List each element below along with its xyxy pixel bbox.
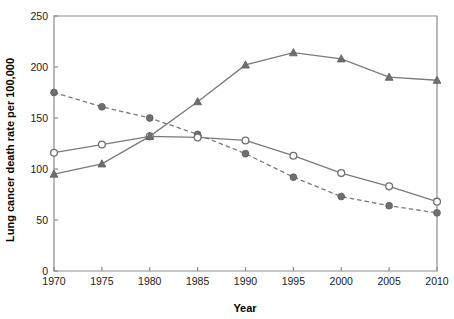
- lung-cancer-death-rate-chart: 0501001502002501970197519801985199019952…: [0, 0, 454, 319]
- data-point-1990: [242, 137, 249, 144]
- series-series-triangle-solid: [50, 49, 441, 178]
- data-point-1995: [290, 174, 297, 181]
- y-tick-label-150: 150: [30, 112, 48, 124]
- y-tick-label-100: 100: [30, 163, 48, 175]
- data-point-1970: [51, 89, 58, 96]
- data-point-1995: [289, 49, 297, 56]
- x-tick-label-2005: 2005: [377, 275, 401, 287]
- data-point-1975: [98, 160, 106, 167]
- x-tick-label-1985: 1985: [186, 275, 210, 287]
- data-point-2010: [434, 209, 441, 216]
- x-tick-label-1995: 1995: [282, 275, 306, 287]
- data-point-2000: [338, 193, 345, 200]
- data-series: [50, 49, 441, 217]
- x-tick-label-2010: 2010: [425, 275, 449, 287]
- x-tick-label-1970: 1970: [42, 275, 66, 287]
- x-tick-label-2000: 2000: [330, 275, 354, 287]
- y-tick-label-200: 200: [30, 61, 48, 73]
- data-point-1985: [194, 134, 201, 141]
- axis-tick-labels: 0501001502002501970197519801985199019952…: [30, 10, 448, 287]
- series-series-open-circle-solid: [51, 133, 441, 205]
- series-series-filled-circle-dashed: [51, 89, 441, 216]
- series-path-open-circle: [54, 136, 437, 201]
- y-tick-label-250: 250: [30, 10, 48, 22]
- chart-canvas: 0501001502002501970197519801985199019952…: [0, 0, 454, 319]
- data-point-1975: [98, 141, 105, 148]
- data-point-2005: [386, 202, 393, 209]
- data-point-2010: [434, 198, 441, 205]
- x-tick-label-1975: 1975: [90, 275, 114, 287]
- data-point-2000: [338, 170, 345, 177]
- data-point-1975: [98, 103, 105, 110]
- data-point-1985: [194, 98, 202, 105]
- data-point-2005: [386, 183, 393, 190]
- y-tick-label-50: 50: [36, 214, 48, 226]
- data-point-1990: [242, 150, 249, 157]
- data-point-1995: [290, 152, 297, 159]
- x-tick-label-1990: 1990: [234, 275, 258, 287]
- data-point-1970: [51, 149, 58, 156]
- data-point-1980: [146, 115, 153, 122]
- x-tick-label-1980: 1980: [138, 275, 162, 287]
